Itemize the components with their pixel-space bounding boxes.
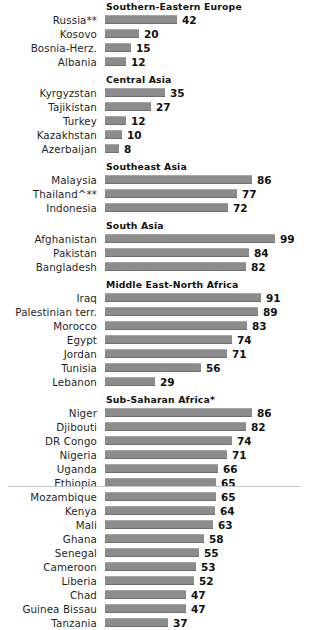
bar bbox=[105, 436, 232, 445]
bar bbox=[105, 307, 258, 316]
bar bbox=[105, 534, 204, 543]
bar-row: Nigeria71 bbox=[0, 448, 309, 462]
bar-row: Ghana58 bbox=[0, 532, 309, 546]
bar-value-label: 86 bbox=[257, 407, 272, 419]
bar-row: Cameroon53 bbox=[0, 560, 309, 574]
bar bbox=[105, 175, 252, 184]
category-label: Tunisia bbox=[0, 362, 97, 374]
bar bbox=[105, 248, 249, 257]
bar-row: Niger86 bbox=[0, 406, 309, 420]
bar-row: Uganda66 bbox=[0, 462, 309, 476]
group-header: Sub-Saharan Africa* bbox=[0, 393, 309, 406]
bar-value-label: 10 bbox=[127, 129, 142, 141]
bar-row: Tunisia56 bbox=[0, 361, 309, 375]
bar-row: Djibouti82 bbox=[0, 420, 309, 434]
bar bbox=[105, 57, 126, 66]
bar bbox=[105, 88, 165, 97]
bar-value-label: 99 bbox=[280, 233, 295, 245]
bar-value-label: 53 bbox=[201, 561, 216, 573]
bar-row: Tanzania37 bbox=[0, 616, 309, 630]
bar-row: Malaysia86 bbox=[0, 173, 309, 187]
bar bbox=[105, 321, 247, 330]
group-header-label: Southern-Eastern Europe bbox=[106, 0, 242, 13]
bar-row: Pakistan84 bbox=[0, 246, 309, 260]
bar-value-label: 91 bbox=[266, 292, 281, 304]
group-header: South Asia bbox=[0, 219, 309, 232]
bar-row: Azerbaijan8 bbox=[0, 142, 309, 156]
category-label: DR Congo bbox=[0, 435, 97, 447]
bar-value-label: 65 bbox=[221, 477, 236, 489]
bar bbox=[105, 590, 186, 599]
bar bbox=[105, 144, 119, 153]
bar bbox=[105, 29, 139, 38]
category-label: Turkey bbox=[0, 115, 97, 127]
bar bbox=[105, 363, 201, 372]
bar-value-label: 74 bbox=[237, 435, 252, 447]
bar-value-label: 56 bbox=[206, 362, 221, 374]
category-label: Nigeria bbox=[0, 449, 97, 461]
bar-value-label: 83 bbox=[252, 320, 267, 332]
bar-row: Bangladesh82 bbox=[0, 260, 309, 274]
bottom-divider bbox=[8, 486, 301, 487]
bar bbox=[105, 520, 213, 529]
bar-row: Kosovo20 bbox=[0, 27, 309, 41]
bar bbox=[105, 464, 218, 473]
bar bbox=[105, 349, 227, 358]
bar bbox=[105, 548, 199, 557]
bar-value-label: 29 bbox=[160, 376, 175, 388]
bar-value-label: 42 bbox=[182, 14, 197, 26]
bar bbox=[105, 262, 246, 271]
bar-value-label: 71 bbox=[232, 449, 247, 461]
bar-value-label: 74 bbox=[237, 334, 252, 346]
category-label: Senegal bbox=[0, 547, 97, 559]
category-label: Ethiopia bbox=[0, 477, 97, 489]
category-label: Ghana bbox=[0, 533, 97, 545]
bar-row: Morocco83 bbox=[0, 319, 309, 333]
bar bbox=[105, 234, 275, 243]
bar bbox=[105, 43, 131, 52]
bar-row: Kenya64 bbox=[0, 504, 309, 518]
bar-row: Indonesia72 bbox=[0, 201, 309, 215]
bar bbox=[105, 15, 177, 24]
category-label: Bangladesh bbox=[0, 261, 97, 273]
group-header-label: South Asia bbox=[106, 219, 164, 232]
bar-row: Ethiopia65 bbox=[0, 476, 309, 490]
category-label: Niger bbox=[0, 407, 97, 419]
bar-row: Senegal55 bbox=[0, 546, 309, 560]
category-label: Kazakhstan bbox=[0, 129, 97, 141]
bar-row: DR Congo74 bbox=[0, 434, 309, 448]
category-label: Iraq bbox=[0, 292, 97, 304]
bar bbox=[105, 293, 261, 302]
bar-row: Egypt74 bbox=[0, 333, 309, 347]
bar bbox=[105, 422, 246, 431]
bar bbox=[105, 203, 228, 212]
bar-value-label: 55 bbox=[204, 547, 219, 559]
category-label: Kosovo bbox=[0, 28, 97, 40]
group-header: Central Asia bbox=[0, 73, 309, 86]
category-label: Tanzania bbox=[0, 617, 97, 629]
bar-row: Russia**42 bbox=[0, 13, 309, 27]
bar-value-label: 66 bbox=[223, 463, 238, 475]
bar bbox=[105, 102, 151, 111]
bar bbox=[105, 116, 126, 125]
category-label: Liberia bbox=[0, 575, 97, 587]
category-label: Mozambique bbox=[0, 491, 97, 503]
bar-value-label: 27 bbox=[156, 101, 171, 113]
bar-row: Guinea Bissau47 bbox=[0, 602, 309, 616]
bar bbox=[105, 335, 232, 344]
bar bbox=[105, 377, 155, 386]
bar-value-label: 71 bbox=[232, 348, 247, 360]
category-label: Egypt bbox=[0, 334, 97, 346]
category-label: Pakistan bbox=[0, 247, 97, 259]
group-header: Middle East-North Africa bbox=[0, 278, 309, 291]
bar-row: Liberia52 bbox=[0, 574, 309, 588]
category-label: Kyrgyzstan bbox=[0, 87, 97, 99]
bar-row: Palestinian terr.89 bbox=[0, 305, 309, 319]
bar-value-label: 89 bbox=[263, 306, 278, 318]
category-label: Malaysia bbox=[0, 174, 97, 186]
bar-value-label: 64 bbox=[220, 505, 235, 517]
bar-value-label: 12 bbox=[131, 115, 146, 127]
category-label: Guinea Bissau bbox=[0, 603, 97, 615]
category-label: Kenya bbox=[0, 505, 97, 517]
bar-row: Albania12 bbox=[0, 55, 309, 69]
